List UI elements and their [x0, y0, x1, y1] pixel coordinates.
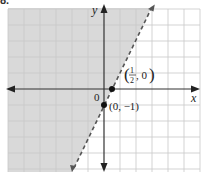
origin-label: 0 — [94, 91, 100, 103]
svg-text:): ) — [149, 65, 155, 84]
fraction-denominator: 2 — [130, 76, 134, 85]
y-axis-label: y — [91, 3, 98, 17]
coordinate-plane: y x 0 ( 1 2 , 0 ) (0, −1) — [0, 0, 203, 177]
point-y-intercept — [101, 102, 107, 108]
x-axis-label: x — [190, 91, 197, 105]
point1-rest: , 0 — [136, 69, 148, 81]
point2-label: (0, −1) — [109, 100, 139, 113]
point-x-intercept — [109, 86, 115, 92]
fraction-numerator: 1 — [130, 66, 134, 75]
